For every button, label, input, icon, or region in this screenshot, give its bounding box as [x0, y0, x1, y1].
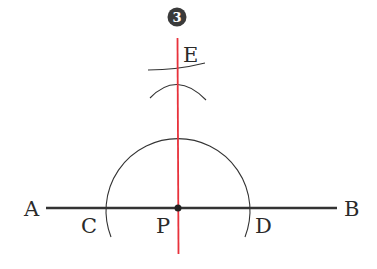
label-d: D — [255, 214, 272, 238]
perpendicular-line — [178, 38, 179, 254]
step-number: 3 — [172, 10, 181, 25]
label-p: P — [156, 214, 170, 238]
construction-diagram: 3 A B C P D E — [0, 0, 377, 269]
label-e: E — [183, 43, 198, 67]
label-a: A — [23, 197, 40, 221]
point-p-dot — [175, 205, 182, 212]
label-b: B — [344, 197, 359, 221]
label-c: C — [81, 214, 97, 238]
step-badge: 3 — [168, 8, 187, 27]
